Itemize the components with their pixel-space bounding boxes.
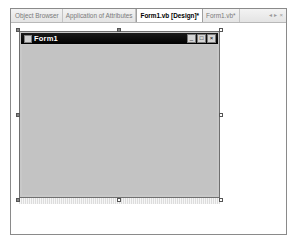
design-surface[interactable]: Form1 _ □ ×	[11, 23, 286, 234]
minimize-icon[interactable]: _	[187, 34, 196, 43]
resize-handle-top-left	[16, 28, 20, 32]
scroll-right-icon[interactable]: ▸	[274, 9, 277, 22]
tab-object-browser[interactable]: Object Browser	[11, 9, 63, 22]
tab-application-of-attributes[interactable]: Application of Attributes	[63, 9, 137, 22]
form-title: Form1	[34, 34, 58, 43]
form-title-bar[interactable]: Form1 _ □ ×	[21, 33, 218, 44]
close-document-icon[interactable]: ×	[279, 9, 283, 22]
resize-handle-top-center	[117, 28, 121, 32]
tab-form1-code[interactable]: Form1.vb*	[203, 9, 239, 22]
close-icon[interactable]: ×	[207, 34, 216, 43]
tab-controls: ◂ ▸ ×	[269, 9, 286, 22]
resize-handle-bottom-center[interactable]	[117, 198, 121, 202]
scroll-left-icon[interactable]: ◂	[269, 9, 272, 22]
form-designer-window[interactable]: Form1 _ □ ×	[19, 31, 220, 198]
tab-form1-design[interactable]: Form1.vb [Design]*	[136, 9, 203, 22]
caption-buttons: _ □ ×	[187, 34, 216, 43]
maximize-icon[interactable]: □	[197, 34, 206, 43]
document-tab-strip: Object Browser Application of Attributes…	[11, 9, 286, 23]
resize-handle-middle-left	[16, 113, 20, 117]
resize-handle-top-right	[219, 28, 223, 32]
form-client-area-grid[interactable]	[22, 45, 217, 195]
resize-handle-middle-right[interactable]	[219, 113, 223, 117]
document-window: Object Browser Application of Attributes…	[10, 8, 287, 235]
resize-handle-bottom-right[interactable]	[219, 198, 223, 202]
resize-handle-bottom-left	[16, 198, 20, 202]
form-icon	[24, 35, 32, 43]
